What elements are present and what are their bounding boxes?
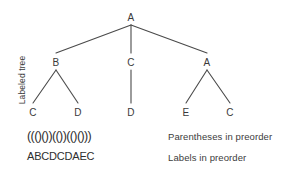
tree-node-n4: C [29, 107, 36, 118]
tree-node-n6: D [127, 107, 134, 118]
labeled-tree-side-label: Labeled tree [17, 56, 27, 104]
tree-node-n2: C [127, 57, 134, 68]
labels-preorder-caption: Labels in preorder [168, 152, 246, 163]
tree-node-n8: C [226, 107, 233, 118]
tree-edge [56, 25, 131, 53]
tree-node-n3: A [204, 57, 211, 68]
tree-edge [131, 25, 207, 53]
tree-edge [56, 70, 78, 103]
parentheses-preorder-caption: Parentheses in preorder [168, 131, 272, 142]
tree-node-n7: E [183, 107, 190, 118]
tree-edge [207, 70, 230, 103]
tree-edge [33, 70, 56, 103]
tree-node-n1: B [53, 57, 60, 68]
parentheses-preorder-sequence: ((()())(())(()())) [27, 129, 91, 143]
labels-preorder-sequence: ABCDCDAEC [27, 150, 94, 162]
tree-edge [186, 70, 207, 103]
tree-node-n0: A [128, 12, 135, 23]
tree-edges [0, 0, 288, 174]
labeled-tree-figure: ABCACDDEC Labeled tree ((()())(())(()())… [0, 0, 288, 174]
tree-node-n5: D [74, 107, 81, 118]
